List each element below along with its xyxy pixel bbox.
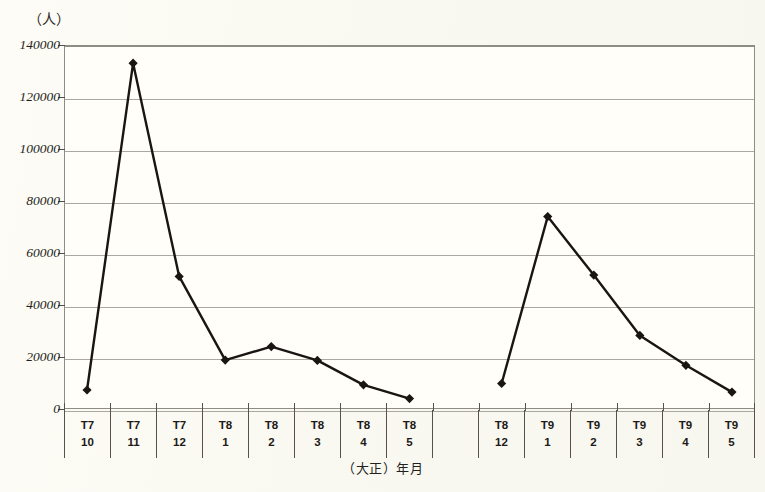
x-axis-cell: T94 — [663, 410, 709, 458]
x-axis-month-label: 3 — [636, 437, 642, 449]
x-axis-era-label: T8 — [311, 420, 324, 432]
x-axis-cell: T84 — [341, 410, 387, 458]
x-axis-month-label: 4 — [682, 437, 688, 449]
x-axis-cell-gap — [433, 410, 479, 458]
data-point-marker — [175, 272, 184, 281]
x-axis-month-label: 3 — [314, 437, 320, 449]
x-axis-era-label: T7 — [81, 420, 94, 432]
x-axis-month-label: 1 — [544, 437, 550, 449]
y-axis-tick-label: 0 — [2, 401, 60, 417]
x-axis-cell: T95 — [709, 410, 754, 458]
x-axis-era-label: T9 — [541, 420, 554, 432]
x-axis-cell: T710 — [65, 410, 111, 458]
series-line — [87, 63, 409, 398]
data-point-marker — [359, 380, 368, 389]
x-axis-era-label: T9 — [725, 420, 738, 432]
x-axis-cell: T711 — [111, 410, 157, 458]
y-axis-tick-label: 120000 — [2, 89, 60, 105]
x-axis-cell: T812 — [479, 410, 525, 458]
data-point-marker — [267, 342, 276, 351]
x-axis-month-label: 5 — [728, 437, 734, 449]
y-axis-unit-label: （人） — [28, 8, 70, 28]
x-axis-month-label: 11 — [127, 437, 139, 449]
x-axis-cell: T81 — [203, 410, 249, 458]
data-point-marker — [405, 394, 414, 403]
x-axis-month-label: 12 — [173, 437, 186, 449]
x-axis-month-label: 1 — [222, 437, 228, 449]
data-point-marker — [221, 356, 230, 365]
x-axis-label-table: T710T711T712T81T82T83T84T85T812T91T92T93… — [64, 410, 755, 458]
x-axis-era-label: T7 — [127, 420, 140, 432]
x-axis-era-label: T9 — [587, 420, 600, 432]
x-axis-cell: T92 — [571, 410, 617, 458]
data-point-marker — [497, 379, 506, 388]
x-axis-month-label: 4 — [360, 437, 366, 449]
y-axis-tick-label: 20000 — [2, 349, 60, 365]
x-axis-cell: T93 — [617, 410, 663, 458]
chart-page: （人） 020000400006000080000100000120000140… — [0, 0, 765, 492]
x-axis-cell: T85 — [387, 410, 433, 458]
y-axis-tick-label: 60000 — [2, 245, 60, 261]
y-axis-tick-label: 80000 — [2, 193, 60, 209]
x-axis-month-label: 10 — [81, 437, 94, 449]
y-axis-tick-label: 40000 — [2, 297, 60, 313]
y-axis-tick-label: 100000 — [2, 141, 60, 157]
series-line — [502, 217, 732, 393]
x-axis-era-label: T8 — [219, 420, 232, 432]
data-point-marker — [313, 356, 322, 365]
data-series-layer — [64, 45, 755, 409]
x-axis-cell: T91 — [525, 410, 571, 458]
x-axis-title: （大正）年月 — [0, 458, 765, 477]
x-axis-month-label: 5 — [406, 437, 412, 449]
x-axis-cell: T82 — [249, 410, 295, 458]
x-axis-month-label: 2 — [590, 437, 596, 449]
x-axis-cell: T83 — [295, 410, 341, 458]
x-axis-era-label: T8 — [357, 420, 370, 432]
y-axis-tick-label: 140000 — [2, 37, 60, 53]
x-axis-era-label: T8 — [403, 420, 416, 432]
x-axis-era-label: T8 — [265, 420, 278, 432]
x-axis-month-label: 2 — [268, 437, 274, 449]
y-axis-labels: 020000400006000080000100000120000140000 — [0, 45, 60, 409]
x-axis-month-label: 12 — [495, 437, 508, 449]
data-point-marker — [82, 385, 91, 394]
x-axis-cell: T712 — [157, 410, 203, 458]
x-axis-era-label: T9 — [679, 420, 692, 432]
x-axis-era-label: T9 — [633, 420, 646, 432]
x-axis-era-label: T8 — [495, 420, 508, 432]
x-axis-era-label: T7 — [173, 420, 186, 432]
data-point-marker — [129, 59, 138, 68]
